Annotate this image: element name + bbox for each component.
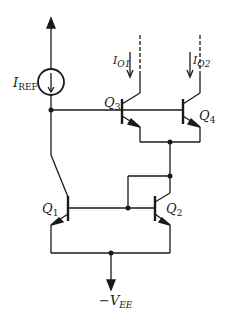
iref-label: IREF (13, 76, 38, 92)
io1-label: IO1 (113, 55, 130, 69)
circuit-diagram: IREF IO1 IO2 Q3 Q4 Q1 Q2 −VEE (0, 0, 237, 316)
circuit-schematic (0, 0, 237, 316)
q3-emitter-arrow-icon (128, 119, 140, 127)
q4-label: Q4 (199, 109, 215, 125)
junction-nodes (49, 108, 173, 256)
q1-label: Q1 (42, 202, 58, 218)
q3-label: Q3 (104, 96, 120, 112)
io2-label: IO2 (193, 55, 210, 69)
down-arrow-icon (107, 280, 115, 290)
q2-emitter-arrow-icon (159, 218, 170, 225)
q2-label: Q2 (166, 202, 182, 218)
up-arrow-icon (47, 18, 55, 28)
vee-label: −VEE (99, 294, 132, 310)
